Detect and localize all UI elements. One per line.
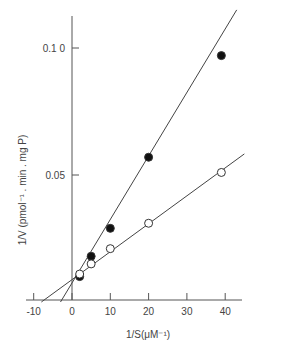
- y-ticks: 0.050.1 0: [43, 43, 79, 181]
- y-tick-label: 0.05: [46, 170, 66, 181]
- y-axis-label: 1/V (pmol⁻¹ . min . mg P): [17, 135, 28, 246]
- x-tick-label: 40: [220, 306, 232, 317]
- x-tick-label: -10: [26, 306, 41, 317]
- open-data-point: [145, 219, 153, 227]
- x-ticks: -10010203040: [26, 293, 231, 317]
- y-tick-label: 0.1 0: [43, 43, 66, 54]
- filled-data-point: [145, 153, 153, 161]
- open-data-point: [76, 270, 84, 278]
- open-data-point: [106, 245, 114, 253]
- x-axis-label: 1/S(μM⁻¹): [126, 329, 170, 340]
- axes: [26, 16, 242, 300]
- data-points: [76, 52, 226, 281]
- x-tick-label: 30: [181, 306, 193, 317]
- open-data-point: [87, 260, 95, 268]
- filled-data-point: [217, 52, 225, 60]
- filled-data-point: [87, 252, 95, 260]
- x-tick-label: 10: [105, 306, 117, 317]
- x-tick-label: 0: [69, 306, 75, 317]
- x-tick-label: 20: [143, 306, 155, 317]
- filled-data-point: [106, 224, 114, 232]
- lineweaver-burk-plot: -10010203040 0.050.1 0 1/S(μM⁻¹) 1/V (pm…: [0, 0, 281, 354]
- open-data-point: [217, 168, 225, 176]
